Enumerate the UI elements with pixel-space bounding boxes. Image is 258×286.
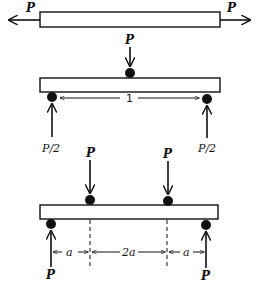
left-support-icon	[46, 219, 56, 229]
left-support-icon	[47, 92, 57, 102]
dim-middle-label: 2a	[121, 246, 136, 259]
span-label: 1	[126, 92, 133, 105]
right-load-label: P	[162, 147, 173, 161]
mechanics-diagram: P P P 1 P/2 P/2 P P a	[0, 0, 258, 286]
left-load-label: P	[85, 146, 96, 160]
load-roller-icon	[125, 68, 135, 78]
right-support-icon	[201, 220, 211, 230]
left-force-label: P	[25, 1, 36, 15]
panel-three-point-bending: P 1 P/2 P/2	[40, 33, 220, 155]
left-reaction-label: P	[45, 268, 56, 282]
bar	[40, 12, 220, 27]
beam	[40, 205, 218, 219]
right-load-roller-icon	[163, 196, 173, 206]
right-reaction-label: P/2	[197, 142, 216, 155]
dim-right-label: a	[183, 246, 190, 259]
beam	[40, 78, 220, 92]
load-label: P	[124, 33, 135, 47]
right-support-icon	[202, 94, 212, 104]
right-force-label: P	[226, 1, 237, 15]
panel-four-point-bending: P P a 2a a P P	[40, 146, 218, 283]
left-reaction-label: P/2	[41, 142, 60, 155]
dim-left-label: a	[66, 246, 73, 259]
panel-axial-tension: P P	[9, 1, 250, 27]
left-load-roller-icon	[85, 195, 95, 205]
right-reaction-label: P	[200, 269, 211, 283]
